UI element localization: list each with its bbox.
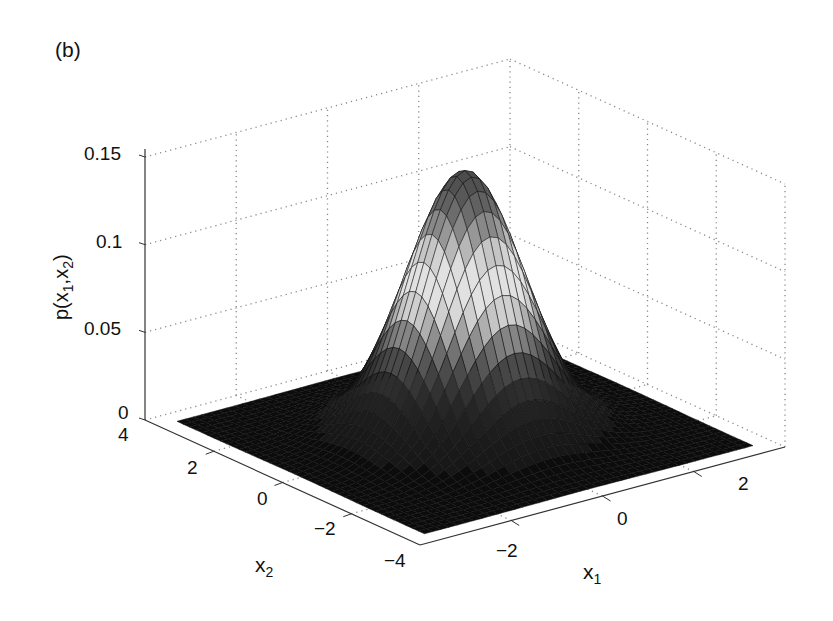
y-tick-label: −4 — [384, 550, 406, 572]
x1-axis-label: x1 — [583, 560, 601, 587]
y-tick-label: 4 — [118, 424, 129, 446]
x2-axis-label: x2 — [255, 553, 273, 580]
surface-plot — [0, 0, 833, 621]
y-tick-label: 2 — [187, 457, 198, 479]
z-tick-label: 0.15 — [84, 143, 121, 165]
x-tick-label: −2 — [496, 540, 518, 562]
x-tick-label: 0 — [617, 508, 628, 530]
panel-label: (b) — [55, 38, 81, 62]
y-tick-label: 0 — [257, 488, 268, 510]
z-axis-label: p(x1,x2) — [50, 254, 76, 320]
y-tick-label: −2 — [314, 518, 336, 540]
z-tick-label: 0 — [118, 402, 129, 424]
x-tick-label: 2 — [738, 473, 749, 495]
z-tick-label: 0.05 — [84, 318, 121, 340]
z-tick-label: 0.1 — [96, 231, 122, 253]
